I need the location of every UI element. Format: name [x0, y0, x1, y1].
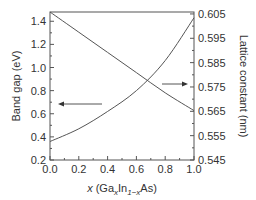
right-tick-label: 0.585: [198, 57, 226, 69]
left-tick-label: 0.6: [31, 108, 46, 120]
x-axis-title: x (GaxIn1−xAs): [86, 182, 157, 197]
x-tick-label: 0.4: [100, 163, 115, 175]
x-axis-ticks: 0.00.20.40.60.81.0: [42, 156, 201, 175]
left-tick-label: 0.2: [31, 154, 46, 166]
plot-area: 0.00.20.40.60.81.0 0.20.40.60.81.01.21.4…: [31, 8, 226, 175]
plot-frame: [50, 12, 194, 160]
right-tick-label: 0.565: [198, 105, 226, 117]
left-tick-label: 1.4: [31, 15, 46, 27]
right-axis-title: Lattice constant (nm): [238, 35, 250, 138]
left-axis-ticks: 0.20.40.60.81.01.21.4: [31, 15, 54, 166]
x-tick-label: 0.8: [158, 163, 173, 175]
x-tick-label: 0.2: [71, 163, 86, 175]
right-tick-label: 0.605: [198, 8, 226, 20]
left-axis-title: Band gap (eV): [10, 51, 22, 122]
arrow-right-annotation: [162, 82, 188, 87]
band-gap-curve: [50, 18, 194, 142]
left-tick-label: 0.8: [31, 85, 46, 97]
x-tick-label: 0.6: [129, 163, 144, 175]
right-tick-label: 0.555: [198, 130, 226, 142]
right-tick-label: 0.545: [198, 154, 226, 166]
left-tick-label: 1.0: [31, 62, 46, 74]
right-tick-label: 0.575: [198, 81, 226, 93]
lattice-constant-line: [50, 12, 194, 111]
right-axis-ticks: 0.5450.5550.5650.5750.5850.5950.605: [190, 8, 226, 166]
left-tick-label: 1.2: [31, 38, 46, 50]
right-tick-label: 0.595: [198, 32, 226, 44]
arrow-left-annotation: [58, 102, 102, 107]
chart: 0.00.20.40.60.81.0 0.20.40.60.81.01.21.4…: [0, 0, 256, 200]
left-tick-label: 0.4: [31, 131, 46, 143]
